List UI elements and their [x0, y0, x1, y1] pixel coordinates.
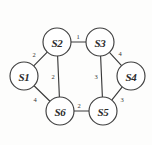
node-s2: S2 [43, 28, 71, 56]
node-label-s5: S5 [97, 106, 109, 118]
edge-weight-s2-s6: 2 [51, 73, 54, 80]
edge-weight-s1-s6: 4 [33, 96, 37, 103]
graph-canvas: 21432423 S1S2S3S4S5S6 [0, 0, 152, 145]
node-s3: S3 [86, 28, 114, 56]
edge-weight-s3-s5: 3 [94, 73, 97, 80]
graph-figure: 21432423 S1S2S3S4S5S6 [0, 0, 152, 145]
edge-weight-s1-s2: 2 [32, 51, 35, 58]
edge-weight-s2-s3: 1 [76, 33, 79, 40]
node-label-s4: S4 [125, 71, 137, 83]
node-s1: S1 [10, 62, 38, 90]
edge-s2-s6 [58, 56, 60, 97]
edge-s3-s5 [101, 56, 103, 97]
node-s5: S5 [89, 97, 117, 125]
node-label-s3: S3 [94, 37, 106, 49]
node-label-s6: S6 [54, 106, 66, 118]
node-label-s2: S2 [51, 37, 63, 49]
edge-weight-s3-s4: 4 [118, 50, 122, 57]
edge-weight-s6-s5: 2 [77, 102, 80, 109]
edge-s1-s2 [34, 52, 47, 66]
node-s4: S4 [117, 62, 145, 90]
node-label-s1: S1 [18, 71, 29, 83]
node-s6: S6 [46, 97, 74, 125]
edge-weight-s4-s5: 3 [120, 96, 123, 103]
